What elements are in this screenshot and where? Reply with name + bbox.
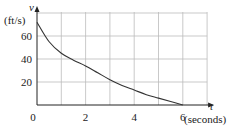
x-axis-unit: (seconds) <box>184 113 226 126</box>
y-axis-label: v <box>29 1 34 13</box>
y-tick-label: 60 <box>21 30 33 42</box>
x-axis-label: t <box>210 100 214 112</box>
y-axis-unit: (ft/s) <box>4 14 26 27</box>
y-tick-label: 20 <box>21 76 33 88</box>
y-tick-labels: 204060 <box>21 30 33 88</box>
y-tick-label: 40 <box>21 53 33 65</box>
y-axis-arrow-icon <box>35 6 40 12</box>
velocity-chart: 204060 0246 v (ft/s) t (seconds) <box>0 0 235 138</box>
x-tick-label: 0 <box>30 111 36 123</box>
grid-lines <box>37 12 207 105</box>
x-tick-label: 2 <box>83 111 89 123</box>
x-tick-labels: 0246 <box>30 111 186 123</box>
x-tick-label: 4 <box>131 111 137 123</box>
